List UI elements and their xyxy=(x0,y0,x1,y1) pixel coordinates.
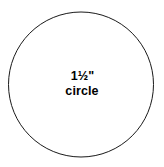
circle-outline xyxy=(9,12,154,157)
circle-outline-svg xyxy=(0,0,164,167)
circle-template-canvas: 1½" circle xyxy=(0,0,164,167)
